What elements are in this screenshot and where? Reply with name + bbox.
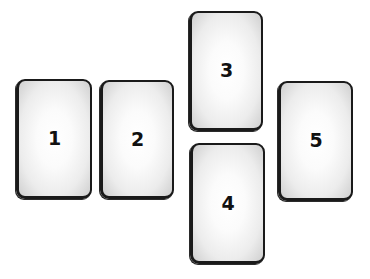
card-4-number: 4 <box>221 194 234 213</box>
card-2: 2 <box>100 80 174 199</box>
card-2-number: 2 <box>131 130 144 149</box>
card-3: 3 <box>189 11 263 131</box>
card-5: 5 <box>278 81 353 201</box>
card-1: 1 <box>16 79 92 199</box>
card-4: 4 <box>190 143 265 264</box>
card-3-number: 3 <box>220 61 233 80</box>
card-5-number: 5 <box>309 131 322 150</box>
card-1-number: 1 <box>48 129 61 148</box>
